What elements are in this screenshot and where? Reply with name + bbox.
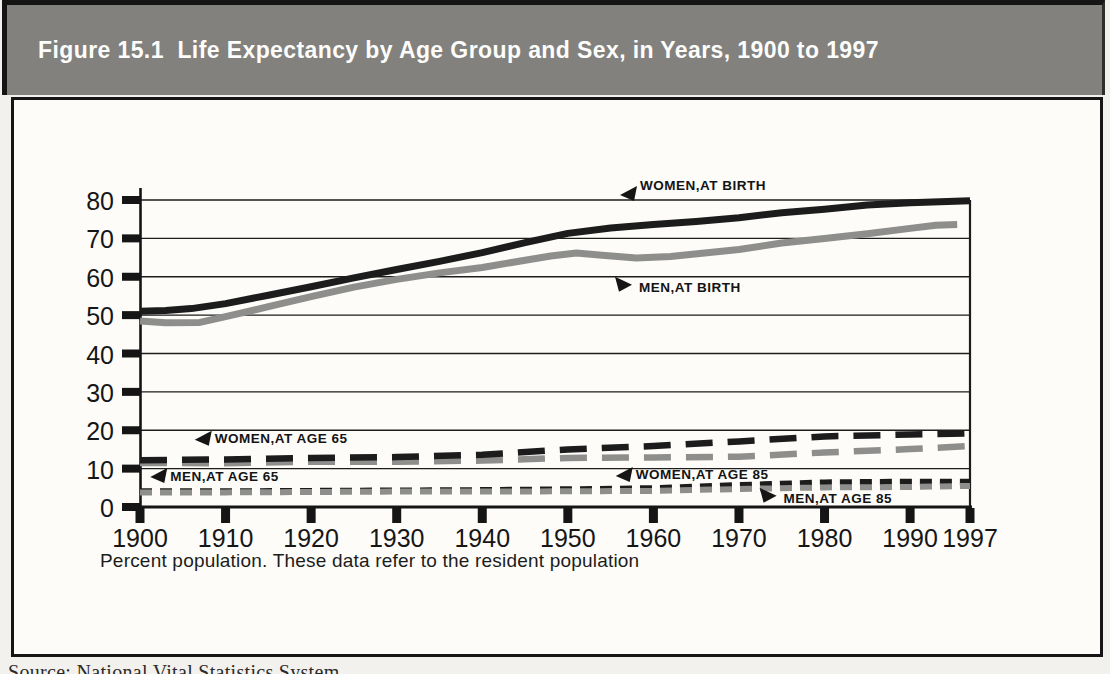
chart-footnote: Percent population. These data refer to … bbox=[100, 550, 639, 572]
y-tick-60 bbox=[122, 273, 140, 281]
annotation-arrow-0 bbox=[620, 186, 637, 201]
y-tick-40 bbox=[122, 350, 140, 358]
x-tick-label-1990: 1990 bbox=[882, 524, 938, 552]
y-tick-70 bbox=[122, 234, 140, 242]
x-tick-1990 bbox=[906, 508, 915, 523]
x-tick-label-1910: 1910 bbox=[198, 524, 254, 552]
y-tick-10 bbox=[122, 465, 140, 473]
annotation-label-2: WOMEN,AT AGE 65 bbox=[215, 431, 348, 446]
y-tick-label-70: 70 bbox=[86, 225, 114, 253]
annotation-arrow-1 bbox=[615, 277, 632, 292]
annotation-arrow-2 bbox=[195, 431, 212, 446]
annotation-label-4: WOMEN,AT AGE 85 bbox=[636, 467, 769, 482]
x-tick-label-1960: 1960 bbox=[626, 524, 682, 552]
figure-title: Figure 15.1 Life Expectancy by Age Group… bbox=[7, 37, 879, 64]
y-tick-30 bbox=[122, 388, 140, 396]
annotation-label-5: MEN,AT AGE 85 bbox=[784, 491, 893, 506]
life-expectancy-line-chart: 0102030405060708019001910192019301940195… bbox=[14, 100, 1100, 570]
y-tick-label-60: 60 bbox=[86, 264, 114, 292]
x-tick-1910 bbox=[221, 508, 230, 523]
y-tick-80 bbox=[122, 196, 140, 204]
x-tick-label-1920: 1920 bbox=[283, 524, 339, 552]
y-tick-label-30: 30 bbox=[86, 379, 114, 407]
men-at-65-line bbox=[140, 446, 970, 463]
x-tick-1940 bbox=[478, 508, 487, 523]
chart-panel: 0102030405060708019001910192019301940195… bbox=[11, 97, 1103, 657]
x-tick-1900 bbox=[136, 508, 145, 523]
y-tick-label-50: 50 bbox=[86, 302, 114, 330]
y-tick-label-10: 10 bbox=[86, 456, 114, 484]
annotation-label-1: MEN,AT BIRTH bbox=[639, 280, 741, 295]
y-tick-label-40: 40 bbox=[86, 341, 114, 369]
y-tick-label-80: 80 bbox=[86, 187, 114, 215]
y-tick-label-0: 0 bbox=[100, 494, 114, 522]
x-tick-label-1900: 1900 bbox=[112, 524, 168, 552]
x-tick-1920 bbox=[307, 508, 316, 523]
annotation-label-3: MEN,AT AGE 65 bbox=[170, 469, 279, 484]
x-tick-label-1980: 1980 bbox=[797, 524, 853, 552]
y-tick-20 bbox=[122, 426, 140, 434]
x-tick-label-1940: 1940 bbox=[454, 524, 510, 552]
x-tick-1950 bbox=[563, 508, 572, 523]
x-tick-label-1997: 1997 bbox=[942, 524, 998, 552]
source-caption: Source: National Vital Statistics System bbox=[8, 661, 1108, 674]
y-tick-50 bbox=[122, 311, 140, 319]
figure-title-bar: Figure 15.1 Life Expectancy by Age Group… bbox=[2, 0, 1105, 95]
x-tick-1997 bbox=[966, 508, 975, 523]
x-tick-1980 bbox=[820, 508, 829, 523]
x-tick-label-1950: 1950 bbox=[540, 524, 596, 552]
y-tick-label-20: 20 bbox=[86, 417, 114, 445]
x-tick-1970 bbox=[734, 508, 743, 523]
annotation-arrow-3 bbox=[150, 468, 167, 483]
x-tick-label-1930: 1930 bbox=[369, 524, 425, 552]
x-tick-label-1970: 1970 bbox=[711, 524, 767, 552]
x-tick-1960 bbox=[649, 508, 658, 523]
x-tick-1930 bbox=[392, 508, 401, 523]
annotation-label-0: WOMEN,AT BIRTH bbox=[640, 178, 766, 193]
